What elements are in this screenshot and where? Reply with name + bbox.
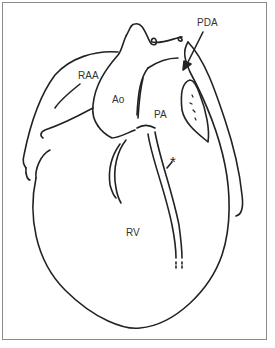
label-pda: PDA: [197, 17, 218, 28]
pda-arrow-line: [186, 32, 203, 66]
pulmonary-artery-curve: [148, 58, 178, 68]
label-raa: RAA: [78, 70, 99, 81]
raa-inner-4: [36, 150, 50, 178]
pda-loop: [181, 80, 208, 142]
label-asterisk: *: [170, 153, 176, 170]
raa-inner-2: [41, 108, 93, 138]
label-ao: Ao: [112, 94, 124, 105]
coronary-dash: [176, 262, 182, 270]
raa-inner-1: [55, 84, 80, 108]
aorta-top: [126, 24, 182, 45]
heart-diagram: [0, 0, 275, 348]
label-pa: PA: [154, 109, 167, 120]
aorta-left: [93, 36, 126, 126]
right-ventricle-outline: [33, 42, 229, 328]
right-atrial-appendage: [23, 52, 118, 168]
pa-bottom: [137, 125, 155, 128]
pda-arrow-head: [183, 61, 191, 70]
coronary-right-2: [155, 132, 182, 258]
pda-inner-marks: [190, 95, 196, 120]
raa-inner-3: [26, 168, 30, 180]
aorta-lower: [98, 126, 135, 138]
label-rv: RV: [126, 227, 140, 238]
